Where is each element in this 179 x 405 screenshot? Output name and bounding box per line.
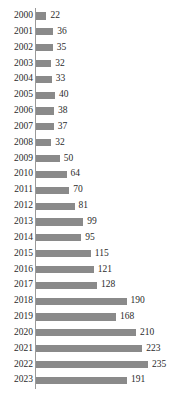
chart-row: 2020210 bbox=[0, 325, 179, 341]
chart-row: 200136 bbox=[0, 24, 179, 40]
bar bbox=[36, 187, 69, 194]
category-label: 2012 bbox=[0, 198, 33, 214]
bar bbox=[36, 282, 97, 289]
chart-row: 200332 bbox=[0, 56, 179, 72]
category-label: 2008 bbox=[0, 135, 33, 151]
bar bbox=[36, 250, 91, 257]
bar-value-label: 223 bbox=[146, 341, 160, 357]
category-label: 2010 bbox=[0, 166, 33, 182]
category-label: 2014 bbox=[0, 230, 33, 246]
bar-container: 81 bbox=[36, 198, 179, 214]
category-label: 2002 bbox=[0, 40, 33, 56]
bar-value-label: 115 bbox=[95, 246, 109, 262]
bar-container: 32 bbox=[36, 135, 179, 151]
bar bbox=[36, 171, 67, 178]
bar-value-label: 33 bbox=[56, 71, 66, 87]
bar-container: 168 bbox=[36, 309, 179, 325]
bar-container: 128 bbox=[36, 277, 179, 293]
chart-row: 201495 bbox=[0, 230, 179, 246]
bar bbox=[36, 60, 51, 67]
bar bbox=[36, 107, 54, 114]
bar-value-label: 128 bbox=[101, 277, 115, 293]
bar bbox=[36, 329, 136, 336]
chart-row: 200832 bbox=[0, 135, 179, 151]
chart-row: 200638 bbox=[0, 103, 179, 119]
category-label: 2009 bbox=[0, 151, 33, 167]
category-label: 2001 bbox=[0, 24, 33, 40]
category-label: 2015 bbox=[0, 246, 33, 262]
bar-value-label: 38 bbox=[58, 103, 68, 119]
bar bbox=[36, 203, 75, 210]
chart-row: 2019168 bbox=[0, 309, 179, 325]
category-label: 2019 bbox=[0, 309, 33, 325]
bar-value-label: 168 bbox=[120, 309, 134, 325]
chart-row: 200950 bbox=[0, 151, 179, 167]
bar-container: 95 bbox=[36, 230, 179, 246]
bar-value-label: 121 bbox=[98, 262, 112, 278]
bar bbox=[36, 266, 94, 273]
bar bbox=[36, 313, 116, 320]
chart-row: 2017128 bbox=[0, 277, 179, 293]
bar-container: 70 bbox=[36, 182, 179, 198]
chart-row: 201399 bbox=[0, 214, 179, 230]
chart-row: 2015115 bbox=[0, 246, 179, 262]
bar-container: 190 bbox=[36, 293, 179, 309]
bar-value-label: 235 bbox=[152, 357, 166, 373]
bar bbox=[36, 218, 83, 225]
bar bbox=[36, 123, 54, 130]
chart-row: 2016121 bbox=[0, 262, 179, 278]
bar bbox=[36, 12, 46, 19]
category-label: 2011 bbox=[0, 182, 33, 198]
bar-container: 99 bbox=[36, 214, 179, 230]
bar-container: 223 bbox=[36, 341, 179, 357]
bar-container: 210 bbox=[36, 325, 179, 341]
bar-value-label: 210 bbox=[140, 325, 154, 341]
chart-row: 2018190 bbox=[0, 293, 179, 309]
bar-value-label: 32 bbox=[55, 135, 65, 151]
category-label: 2016 bbox=[0, 262, 33, 278]
bar-value-label: 35 bbox=[57, 40, 67, 56]
chart-row: 2021223 bbox=[0, 341, 179, 357]
bar-value-label: 190 bbox=[131, 293, 145, 309]
bar-container: 50 bbox=[36, 151, 179, 167]
category-label: 2005 bbox=[0, 87, 33, 103]
bar-value-label: 22 bbox=[50, 8, 60, 24]
bar bbox=[36, 377, 127, 384]
category-label: 2022 bbox=[0, 357, 33, 373]
bar-container: 32 bbox=[36, 56, 179, 72]
category-label: 2004 bbox=[0, 71, 33, 87]
bar bbox=[36, 345, 142, 352]
chart-row: 200433 bbox=[0, 71, 179, 87]
chart-row: 200235 bbox=[0, 40, 179, 56]
chart-row: 2022235 bbox=[0, 357, 179, 373]
chart-row: 201064 bbox=[0, 166, 179, 182]
bar-value-label: 81 bbox=[79, 198, 89, 214]
chart-row: 200737 bbox=[0, 119, 179, 135]
bar-container: 115 bbox=[36, 246, 179, 262]
category-label: 2007 bbox=[0, 119, 33, 135]
category-label: 2000 bbox=[0, 8, 33, 24]
bar bbox=[36, 155, 60, 162]
chart-row: 200540 bbox=[0, 87, 179, 103]
bar bbox=[36, 76, 52, 83]
bar-value-label: 37 bbox=[58, 119, 68, 135]
category-label: 2006 bbox=[0, 103, 33, 119]
bar-container: 121 bbox=[36, 262, 179, 278]
category-label: 2020 bbox=[0, 325, 33, 341]
chart-row: 201281 bbox=[0, 198, 179, 214]
bar-container: 33 bbox=[36, 71, 179, 87]
category-label: 2003 bbox=[0, 56, 33, 72]
bar-container: 235 bbox=[36, 357, 179, 373]
bar-container: 64 bbox=[36, 166, 179, 182]
bar-chart: 2000222001362002352003322004332005402006… bbox=[0, 0, 179, 405]
bar-value-label: 95 bbox=[85, 230, 95, 246]
bar-value-label: 32 bbox=[55, 56, 65, 72]
bar-container: 36 bbox=[36, 24, 179, 40]
category-label: 2017 bbox=[0, 277, 33, 293]
bar bbox=[36, 28, 53, 35]
bar-value-label: 36 bbox=[57, 24, 67, 40]
bar bbox=[36, 298, 127, 305]
category-label: 2018 bbox=[0, 293, 33, 309]
chart-plot-area: 2000222001362002352003322004332005402006… bbox=[0, 8, 179, 388]
bar-container: 37 bbox=[36, 119, 179, 135]
